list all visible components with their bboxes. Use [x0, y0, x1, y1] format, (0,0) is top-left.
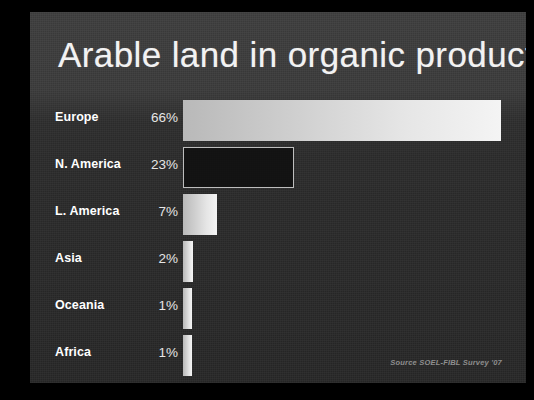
bar-n-america	[183, 147, 294, 188]
row-label: L. America	[55, 204, 165, 218]
row-value: 66%	[150, 110, 178, 125]
bar-track	[183, 194, 520, 235]
row-label: Asia	[55, 251, 165, 265]
bar-asia	[183, 241, 193, 282]
slide-frame: Arable land in organic production Europe…	[0, 0, 534, 400]
source-note: Source SOEL-FIBL Survey '07	[390, 358, 502, 367]
bar-africa	[183, 335, 192, 376]
row-label: Africa	[55, 345, 165, 359]
row-label: Oceania	[55, 298, 165, 312]
bar-track	[183, 288, 520, 329]
row-value: 23%	[150, 157, 178, 172]
presentation-slide: Arable land in organic production Europe…	[30, 12, 526, 383]
chart-row-africa: Africa 1%	[30, 332, 526, 379]
slide-title: Arable land in organic production	[58, 34, 510, 76]
bar-oceania	[183, 288, 192, 329]
chart-row-n-america: N. America 23%	[30, 144, 526, 191]
row-value: 2%	[150, 251, 178, 266]
row-label: N. America	[55, 157, 165, 171]
chart-row-asia: Asia 2%	[30, 238, 526, 285]
row-value: 7%	[150, 204, 178, 219]
chart-row-oceania: Oceania 1%	[30, 285, 526, 332]
bar-l-america	[183, 194, 217, 235]
chart-row-europe: Europe 66%	[30, 97, 526, 144]
row-value: 1%	[150, 345, 178, 360]
bar-chart: Europe 66% N. America 23% L. America 7%	[30, 97, 526, 355]
bar-track	[183, 147, 520, 188]
chart-row-l-america: L. America 7%	[30, 191, 526, 238]
bar-track	[183, 335, 520, 376]
row-value: 1%	[150, 298, 178, 313]
bar-track	[183, 100, 520, 141]
bar-track	[183, 241, 520, 282]
bar-europe	[183, 100, 501, 141]
row-label: Europe	[55, 110, 165, 124]
